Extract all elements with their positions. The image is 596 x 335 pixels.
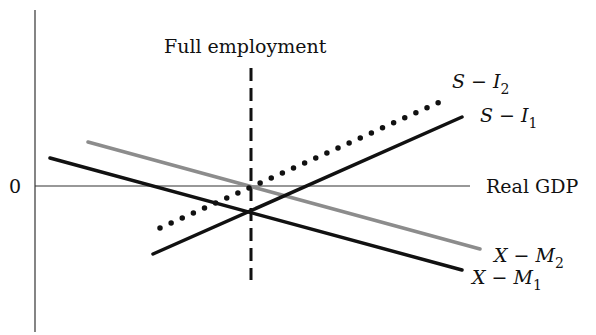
s-i-1-label: S − I1: [480, 104, 537, 131]
zero-label: 0: [9, 175, 21, 197]
x-m-1-line: [50, 158, 462, 270]
s-i-2-line: [160, 102, 440, 228]
s-i-2-label: S − I2: [452, 70, 509, 97]
x-m-1-label: X − M1: [470, 266, 542, 293]
x-axis-label: Real GDP: [486, 175, 578, 197]
diagram-canvas: 0 Real GDP Full employment S − I2 S − I1…: [0, 0, 596, 335]
full-employment-label: Full employment: [164, 35, 327, 57]
